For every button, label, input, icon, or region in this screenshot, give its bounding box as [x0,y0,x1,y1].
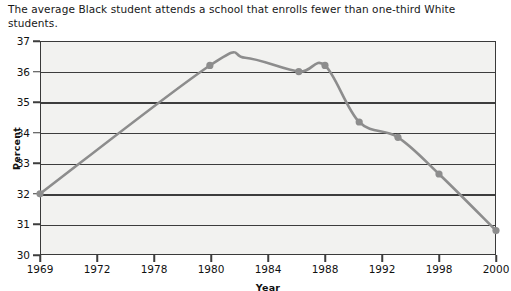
y-tick-label-35: 35 [17,96,30,108]
y-tick-mark-34 [33,132,40,134]
x-tick-label-1988: 1988 [312,263,339,275]
y-tick-mark-37 [33,40,40,42]
y-tick-mark-33 [33,163,40,165]
series-line [40,52,496,230]
x-tick-label-1980: 1980 [198,263,225,275]
data-point-1969 [36,190,43,197]
y-tick-label-30: 30 [17,249,30,261]
y-tick-label-37: 37 [17,35,30,47]
x-tick-label-2000: 2000 [483,263,510,275]
x-tick-label-1998: 1998 [426,263,453,275]
y-tick-label-33: 33 [17,157,30,169]
chart-figure: Percent 3031323334353637 196919721978198… [0,33,511,291]
x-tick-label-1972: 1972 [84,263,111,275]
y-tick-label-36: 36 [17,66,30,78]
data-series [40,41,496,255]
x-tick-label-1969: 1969 [27,263,54,275]
data-point-1998 [435,170,442,177]
y-axis-labels: 3031323334353637 [0,41,40,255]
x-tick-mark-2000 [495,255,497,262]
data-point-1990 [356,118,363,125]
x-tick-mark-1998 [438,255,440,262]
y-tick-mark-31 [33,224,40,226]
x-tick-label-1978: 1978 [141,263,168,275]
y-tick-mark-36 [33,71,40,73]
x-tick-label-1992: 1992 [369,263,396,275]
x-tick-mark-1988 [324,255,326,262]
data-point-1986 [295,68,302,75]
x-tick-mark-1984 [267,255,269,262]
y-tick-mark-35 [33,101,40,103]
x-tick-label-1984: 1984 [255,263,282,275]
chart-caption: The average Black student attends a scho… [8,2,478,30]
x-tick-mark-1972 [96,255,98,262]
x-tick-mark-1978 [153,255,155,262]
y-tick-label-32: 32 [17,188,30,200]
x-tick-mark-1969 [39,255,41,262]
data-point-1988 [321,62,328,69]
data-point-1993 [394,134,401,141]
y-tick-label-31: 31 [17,218,30,230]
x-axis-title: Year [40,282,496,291]
data-point-2000 [492,227,499,234]
data-point-1980 [206,62,213,69]
y-tick-label-34: 34 [17,127,30,139]
x-tick-mark-1980 [210,255,212,262]
x-tick-mark-1992 [381,255,383,262]
